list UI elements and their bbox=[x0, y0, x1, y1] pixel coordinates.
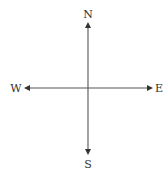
compass-diagram: N S W E bbox=[0, 0, 167, 173]
north-arrow-icon bbox=[85, 22, 91, 28]
west-arrow-icon bbox=[24, 85, 30, 91]
south-label: S bbox=[84, 158, 92, 171]
compass-axes bbox=[27, 25, 150, 152]
east-label: E bbox=[155, 82, 163, 95]
east-arrow-icon bbox=[147, 85, 153, 91]
south-arrow-icon bbox=[85, 149, 91, 155]
west-label: W bbox=[10, 82, 22, 95]
north-label: N bbox=[83, 8, 93, 21]
